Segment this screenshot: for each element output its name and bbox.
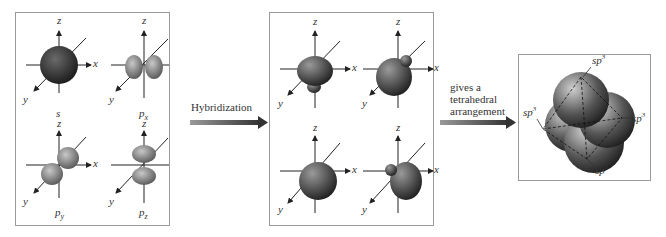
arrangement-arrow xyxy=(440,116,516,129)
x-axis-label: x xyxy=(93,57,98,69)
py-orbital xyxy=(26,131,91,198)
sp3-orbital-3 xyxy=(280,136,350,213)
tetrahedral-panel: sp3 sp3 sp3 sp3 xyxy=(518,54,651,181)
sp3-label-bottom: sp3 xyxy=(595,163,608,176)
z-axis-label: z xyxy=(396,15,400,27)
y-axis-label: y xyxy=(109,195,114,207)
px-orbital xyxy=(111,31,169,98)
y-axis-label: y xyxy=(278,203,283,215)
x-axis-label: x xyxy=(352,61,357,73)
sp3-label-top: sp3 xyxy=(592,53,605,66)
x-axis-label: x xyxy=(93,157,98,169)
z-axis-label: z xyxy=(142,14,146,26)
hybridization-arrow xyxy=(190,116,268,129)
hybrid-orbitals-drawing xyxy=(270,13,433,225)
y-axis-label: y xyxy=(362,97,367,109)
px-label: px xyxy=(139,107,148,122)
z-axis-label: z xyxy=(57,14,61,26)
sp3-label-left: sp3 xyxy=(523,105,536,118)
x-axis-label: x xyxy=(434,61,439,73)
py-label: py xyxy=(55,206,64,221)
x-axis-label: x xyxy=(434,163,439,175)
z-axis-label: z xyxy=(313,15,317,27)
y-axis-label: y xyxy=(23,195,28,207)
y-axis-label: y xyxy=(362,203,367,215)
arrangement-label: gives a tetrahedral arrangement xyxy=(450,81,505,117)
s-label: s xyxy=(56,107,60,119)
z-axis-label: z xyxy=(313,121,317,133)
pz-orbital xyxy=(111,131,169,203)
x-axis-label: x xyxy=(352,163,357,175)
s-orbital xyxy=(26,31,91,93)
z-axis-label: z xyxy=(396,121,400,133)
y-axis-label: y xyxy=(278,97,283,109)
tetrahedral-drawing xyxy=(519,55,650,180)
sp3-orbital-4 xyxy=(363,136,433,213)
hybrid-orbitals-panel: z x y z x y z x y z x y xyxy=(269,12,434,226)
sp3-label-right: sp3 xyxy=(632,111,645,124)
sp3-orbital-1 xyxy=(280,31,350,108)
y-axis-label: y xyxy=(109,93,114,105)
y-axis-label: y xyxy=(23,93,28,105)
hybridization-label: Hybridization xyxy=(191,101,252,113)
sp3-orbital-2 xyxy=(363,31,433,108)
atomic-orbitals-panel: z x y z y z x y z y s px py pz xyxy=(15,12,170,226)
pz-label: pz xyxy=(139,206,148,221)
